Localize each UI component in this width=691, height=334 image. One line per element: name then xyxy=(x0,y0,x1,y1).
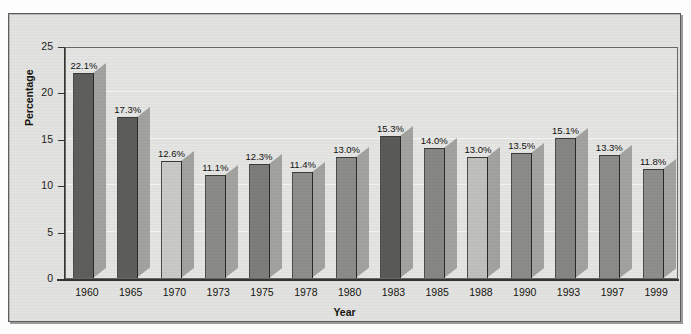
bar-value-label: 15.1% xyxy=(549,125,583,136)
bar[interactable] xyxy=(380,136,401,278)
bar-shadow-wedge xyxy=(225,165,240,278)
y-tick-label: 15 xyxy=(29,133,53,145)
bar-shadow-wedge xyxy=(356,147,371,278)
bar[interactable] xyxy=(511,153,532,278)
x-tick-label: 1983 xyxy=(372,286,414,298)
bar-value-label: 14.0% xyxy=(417,135,451,146)
bar[interactable] xyxy=(424,148,445,278)
bar[interactable] xyxy=(161,161,182,278)
plot-area: 22.1%17.3%12.6%11.1%12.3%11.4%13.0%15.3%… xyxy=(65,47,678,279)
bar[interactable] xyxy=(643,169,664,279)
bar-value-label: 13.3% xyxy=(592,142,626,153)
bar-shadow-wedge xyxy=(619,145,634,278)
bar-value-label: 11.1% xyxy=(198,162,232,173)
x-axis-line xyxy=(57,279,679,281)
bar-value-label: 13.0% xyxy=(461,144,495,155)
y-tick-label: 25 xyxy=(29,40,53,52)
x-tick-label: 1980 xyxy=(329,286,371,298)
y-tick-label: 5 xyxy=(29,226,53,238)
x-tick-label: 1999 xyxy=(635,286,677,298)
bar-shadow-wedge xyxy=(444,138,459,278)
x-tick-label: 1970 xyxy=(153,286,195,298)
bar-shadow-wedge xyxy=(93,63,108,278)
bar-value-label: 22.1% xyxy=(67,60,101,71)
bar-value-label: 17.3% xyxy=(111,104,145,115)
x-tick-label: 1985 xyxy=(416,286,458,298)
x-tick-label: 1997 xyxy=(591,286,633,298)
y-tick-label: 0 xyxy=(29,272,53,284)
x-axis-title: Year xyxy=(9,306,680,318)
bar-value-label: 13.5% xyxy=(505,140,539,151)
bar-value-label: 12.6% xyxy=(154,148,188,159)
bar-value-label: 13.0% xyxy=(330,144,364,155)
chart-screenshot: Percentage 0510152025 22.1%17.3%12.6%11.… xyxy=(0,0,691,334)
gridline xyxy=(66,91,677,92)
x-tick-label: 1960 xyxy=(66,286,108,298)
bar[interactable] xyxy=(292,172,313,278)
bar[interactable] xyxy=(555,138,576,278)
bar[interactable] xyxy=(467,157,488,278)
bar-shadow-wedge xyxy=(269,154,284,278)
bar-shadow-wedge xyxy=(137,107,152,278)
bar-value-label: 12.3% xyxy=(242,151,276,162)
x-tick-label: 1975 xyxy=(241,286,283,298)
bar[interactable] xyxy=(336,157,357,278)
bar[interactable] xyxy=(117,117,138,278)
x-tick-label: 1988 xyxy=(460,286,502,298)
bar-shadow-wedge xyxy=(181,151,196,278)
bar-shadow-wedge xyxy=(531,143,546,278)
bar-value-label: 11.8% xyxy=(636,156,670,167)
bar-shadow-wedge xyxy=(312,162,327,278)
bar-shadow-wedge xyxy=(487,147,502,278)
x-tick-label: 1965 xyxy=(110,286,152,298)
bar[interactable] xyxy=(73,73,94,278)
bar-shadow-wedge xyxy=(663,159,678,279)
bar-shadow-wedge xyxy=(400,126,415,278)
chart-outer-frame: Percentage 0510152025 22.1%17.3%12.6%11.… xyxy=(8,13,681,322)
bar-shadow-wedge xyxy=(575,128,590,278)
y-tick-label: 10 xyxy=(29,179,53,191)
bar-value-label: 15.3% xyxy=(373,123,407,134)
bar[interactable] xyxy=(599,155,620,278)
x-tick-label: 1990 xyxy=(504,286,546,298)
x-tick-label: 1973 xyxy=(197,286,239,298)
bar[interactable] xyxy=(205,175,226,278)
bar-value-label: 11.4% xyxy=(286,159,320,170)
x-tick-label: 1978 xyxy=(285,286,327,298)
x-tick-label: 1993 xyxy=(548,286,590,298)
bar[interactable] xyxy=(249,164,270,278)
y-tick-label: 20 xyxy=(29,86,53,98)
